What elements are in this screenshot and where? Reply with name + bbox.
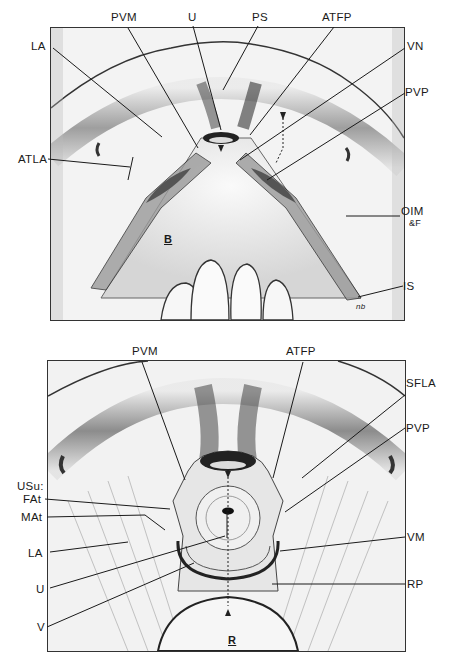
label-ps: PS bbox=[252, 11, 268, 23]
label-u-bottom: U bbox=[36, 583, 45, 595]
label-pvp-top: PVP bbox=[405, 86, 429, 98]
label-usu: USu: bbox=[17, 480, 44, 492]
top-illustration-panel: B nb bbox=[50, 27, 405, 321]
label-oim: OIM bbox=[401, 205, 424, 217]
pelvic-floor-rectum-drawing bbox=[48, 361, 405, 651]
bottom-illustration-panel: R bbox=[47, 360, 406, 652]
label-pvm-bottom: PVM bbox=[132, 345, 158, 357]
label-v: V bbox=[37, 621, 45, 633]
label-rp: RP bbox=[407, 578, 424, 590]
bladder-label: B bbox=[164, 233, 172, 245]
label-la-bottom: LA bbox=[28, 547, 43, 559]
label-atfp-top: ATFP bbox=[322, 11, 352, 23]
label-is: IS bbox=[403, 280, 414, 292]
label-la-top: LA bbox=[31, 40, 46, 52]
label-pvp-bottom: PVP bbox=[406, 422, 430, 434]
pelvic-floor-bladder-drawing bbox=[51, 28, 404, 320]
artist-signature: nb bbox=[356, 301, 366, 313]
label-atla: ATLA bbox=[18, 153, 47, 165]
rectum-label: R bbox=[228, 634, 236, 646]
label-fat: FAt bbox=[23, 493, 41, 505]
label-vn: VN bbox=[407, 40, 424, 52]
label-u-top: U bbox=[188, 11, 197, 23]
label-oim-fascia: &F bbox=[409, 217, 421, 229]
label-mat: MAt bbox=[21, 511, 42, 523]
label-sfla: SFLA bbox=[406, 377, 436, 389]
label-atfp-bottom: ATFP bbox=[286, 345, 316, 357]
label-vm: VM bbox=[407, 531, 425, 543]
label-pvm-top: PVM bbox=[111, 11, 137, 23]
